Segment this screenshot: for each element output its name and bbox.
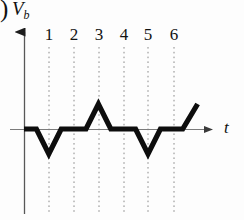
waveform-figure: ) Vb t 1 2 3 4 5 6 (0, 0, 244, 220)
plot-area (0, 0, 244, 220)
